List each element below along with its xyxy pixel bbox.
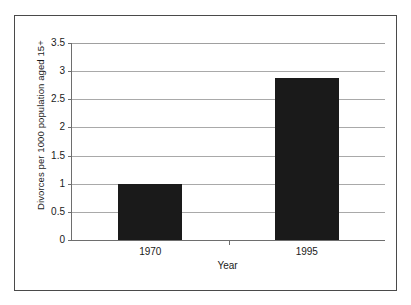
y-axis-tick-mark (68, 212, 72, 213)
x-axis-tick-label: 1995 (296, 246, 318, 257)
x-axis-title: Year (71, 260, 384, 271)
x-axis-tick-mark (229, 240, 230, 245)
y-axis-tick-mark (68, 71, 72, 72)
y-axis-title: Divorces per 1000 population aged 15+ (36, 25, 46, 225)
figure-frame: Divorces per 1000 population aged 15+ 00… (14, 15, 397, 291)
y-axis-tick-label: 3 (59, 66, 65, 76)
bar-chart: Divorces per 1000 population aged 15+ 00… (15, 16, 398, 292)
y-axis-tick-label: 3.5 (51, 38, 65, 48)
y-axis-tick-label: 1 (59, 179, 65, 189)
gridline (72, 43, 385, 44)
bar-1995[interactable] (275, 78, 339, 240)
plot-area: 00.511.522.533.519701995 (71, 43, 385, 241)
gridline (72, 71, 385, 72)
y-axis-tick-label: 0.5 (51, 207, 65, 217)
x-axis-tick-label: 1970 (139, 246, 161, 257)
y-axis-tick-mark (68, 184, 72, 185)
y-axis-tick-mark (68, 156, 72, 157)
y-axis-tick-label: 2 (59, 122, 65, 132)
y-axis-tick-label: 0 (59, 235, 65, 245)
y-axis-tick-mark (68, 240, 72, 241)
y-axis-tick-mark (68, 99, 72, 100)
y-axis-tick-label: 1.5 (51, 151, 65, 161)
y-axis-tick-label: 2.5 (51, 94, 65, 104)
bar-1970[interactable] (118, 184, 182, 240)
y-axis-tick-mark (68, 127, 72, 128)
y-axis-tick-mark (68, 43, 72, 44)
